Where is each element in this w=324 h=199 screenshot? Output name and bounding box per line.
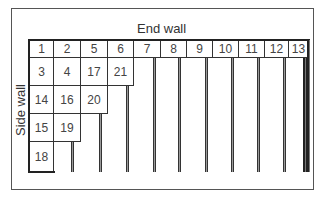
cell-7: 7 — [133, 40, 161, 58]
cell-1: 1 — [29, 40, 54, 58]
joist-strip — [178, 58, 181, 172]
joist-strip — [283, 58, 286, 172]
joist-strip — [99, 114, 102, 172]
cell-3: 3 — [29, 57, 54, 86]
cell-13: 13 — [288, 40, 309, 58]
joist-strip — [126, 86, 129, 172]
cell-15: 15 — [29, 113, 54, 142]
right-wall-line — [307, 40, 310, 172]
cell-12: 12 — [264, 40, 289, 58]
cell-14: 14 — [29, 85, 54, 114]
cell-11: 11 — [238, 40, 265, 58]
cell-17: 17 — [80, 57, 108, 86]
joist-strip — [153, 58, 156, 172]
cell-19: 19 — [53, 113, 81, 142]
end-wall-label: End wall — [137, 21, 186, 36]
joist-strip — [205, 58, 208, 172]
cell-2: 2 — [53, 40, 81, 58]
cell-20: 20 — [80, 85, 108, 114]
cell-8: 8 — [160, 40, 187, 58]
cell-21: 21 — [107, 57, 134, 86]
joist-strip — [71, 142, 74, 172]
cell-4: 4 — [53, 57, 81, 86]
cell-5: 5 — [80, 40, 108, 58]
side-wall-label: Side wall — [13, 84, 28, 136]
cell-6: 6 — [107, 40, 134, 58]
cell-10: 10 — [212, 40, 239, 58]
joist-strip — [257, 58, 260, 172]
cell-18: 18 — [29, 141, 54, 172]
cell-16: 16 — [53, 85, 81, 114]
cell-9: 9 — [186, 40, 213, 58]
joist-strip — [231, 58, 234, 172]
